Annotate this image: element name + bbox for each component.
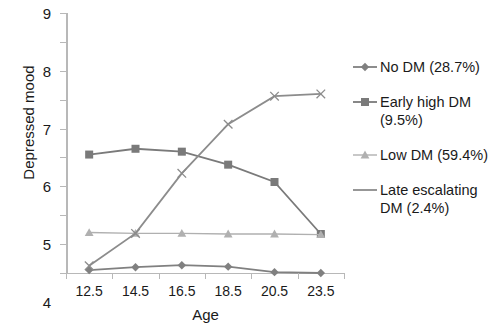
legend-key-square-icon (352, 93, 378, 111)
x-tick-label: 20.5 (261, 283, 288, 299)
legend-item-3[interactable]: Late escalating DM (2.4%) (352, 181, 500, 217)
data-point-diamond (317, 269, 325, 277)
legend-label: No DM (28.7%) (380, 58, 480, 76)
legend-key-diamond-icon (352, 58, 378, 76)
x-tick-label: 16.5 (168, 283, 195, 299)
x-tick-mark (112, 273, 113, 279)
data-point-square (85, 151, 93, 159)
legend-label: Late escalating DM (2.4%) (380, 181, 500, 217)
legend-label: Low DM (59.4%) (380, 146, 488, 164)
data-point-diamond (361, 63, 369, 71)
chart-figure: Depressed mood 0123456789 12.514.516.518… (0, 0, 500, 332)
x-tick-mark (159, 273, 160, 279)
series-line (89, 233, 321, 235)
x-tick-mark (66, 273, 67, 279)
data-point-diamond (270, 268, 278, 276)
y-tick-label: 9 (43, 5, 51, 22)
series-layer (66, 13, 344, 273)
x-axis-title: Age (66, 306, 345, 323)
x-tick-label: 12.5 (76, 283, 103, 299)
data-point-cross (178, 169, 187, 178)
series-line (89, 149, 321, 234)
data-point-square (224, 161, 232, 169)
data-point-square (361, 98, 369, 106)
legend-item-2[interactable]: Low DM (59.4%) (352, 146, 500, 164)
x-tick-label: 18.5 (215, 283, 242, 299)
y-tick-label: 7 (43, 120, 51, 137)
x-tick-label: 14.5 (122, 283, 149, 299)
legend-item-0[interactable]: No DM (28.7%) (352, 58, 500, 76)
y-tick-label: 5 (43, 236, 51, 253)
legend-key-triangle-icon (352, 146, 378, 164)
x-tick-mark (205, 273, 206, 279)
series-line (89, 94, 321, 266)
chart-legend: No DM (28.7%)Early high DM (9.5%)Low DM … (352, 58, 500, 243)
y-axis-title: Depressed mood (20, 33, 37, 213)
y-tick-label: 4 (43, 293, 51, 310)
legend-key-cross-icon (352, 181, 378, 199)
x-tick-mark (344, 273, 345, 279)
y-tick-label: 6 (43, 178, 51, 195)
x-tick-label: 23.5 (307, 283, 334, 299)
data-point-diamond (224, 262, 232, 270)
x-tick-mark (251, 273, 252, 279)
data-point-square (178, 148, 186, 156)
series-2 (85, 228, 325, 238)
data-point-square (271, 178, 279, 186)
data-point-diamond (178, 261, 186, 269)
data-point-diamond (131, 263, 139, 271)
series-3 (85, 90, 325, 270)
y-tick-label: 8 (43, 62, 51, 79)
series-1 (85, 145, 325, 238)
plot-area: 0123456789 (66, 13, 344, 273)
legend-item-1[interactable]: Early high DM (9.5%) (352, 93, 500, 129)
legend-label: Early high DM (9.5%) (380, 93, 500, 129)
x-tick-mark (298, 273, 299, 279)
data-point-square (132, 145, 140, 153)
data-point-cross (224, 120, 233, 129)
series-line (89, 265, 321, 273)
